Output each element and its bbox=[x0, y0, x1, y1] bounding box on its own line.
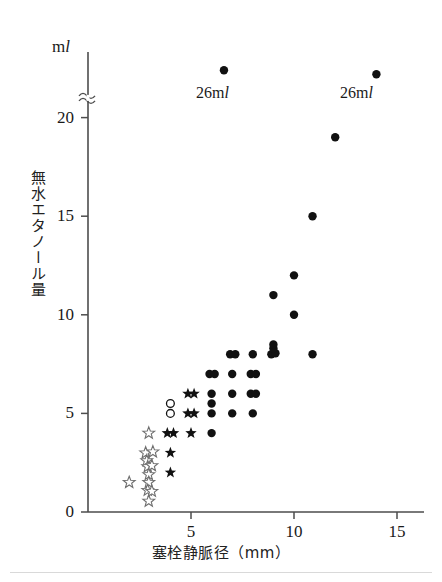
data-point-filled-star bbox=[165, 447, 176, 458]
data-point-filled-circle bbox=[228, 409, 236, 417]
data-point-filled-circle bbox=[269, 291, 277, 299]
data-point-open-circle bbox=[167, 400, 175, 408]
y-tick-label-5: 5 bbox=[40, 404, 74, 421]
data-point-filled-circle bbox=[207, 429, 215, 437]
y-tick-label-10: 10 bbox=[40, 306, 74, 323]
data-point-open-star bbox=[143, 495, 155, 506]
data-point-filled-circle bbox=[207, 409, 215, 417]
data-point-filled-circle bbox=[372, 70, 380, 78]
data-point-filled-circle bbox=[210, 370, 218, 378]
data-point-filled-circle bbox=[269, 340, 277, 348]
y-tick-label-20: 20 bbox=[40, 109, 74, 126]
filled-circle-26ml-label: 26ml bbox=[340, 84, 373, 102]
data-point-filled-circle bbox=[290, 311, 298, 319]
data-point-filled-circle bbox=[228, 370, 236, 378]
data-point-filled-circle bbox=[207, 399, 215, 407]
y-tick-label-0: 0 bbox=[40, 503, 74, 520]
data-point-open-circle bbox=[167, 410, 175, 418]
data-point-filled-circle bbox=[249, 350, 257, 358]
data-point-open-star bbox=[123, 476, 135, 487]
x-tick-label-10: 10 bbox=[277, 523, 311, 540]
open-circle-26ml-label: 26ml bbox=[196, 84, 229, 102]
y-axis-title: 無水エタノール量 bbox=[20, 170, 44, 298]
data-point-filled-circle bbox=[249, 409, 257, 417]
data-point-filled-circle bbox=[290, 271, 298, 279]
data-point-filled-star bbox=[165, 467, 176, 478]
data-point-filled-star bbox=[185, 427, 196, 438]
data-point-open-star bbox=[143, 427, 155, 438]
data-point-filled-circle bbox=[331, 133, 339, 141]
x-axis-title: 塞栓静脈径（mm） bbox=[0, 541, 442, 562]
data-point-filled-circle bbox=[252, 389, 260, 397]
x-tick-label-15: 15 bbox=[380, 523, 414, 540]
data-point-filled-circle bbox=[207, 389, 215, 397]
data-point-filled-circle bbox=[308, 350, 316, 358]
bottom-divider bbox=[10, 572, 432, 573]
data-point-filled-circle bbox=[308, 212, 316, 220]
data-point-filled-circle bbox=[252, 370, 260, 378]
y-tick-label-15: 15 bbox=[40, 207, 74, 224]
data-point-filled-circle bbox=[228, 389, 236, 397]
scatter-plot-figure: ml 無水エタノール量 塞栓静脈径（mm） 051015205101526ml2… bbox=[0, 0, 442, 582]
data-point-filled-circle bbox=[220, 66, 228, 74]
data-point-filled-circle bbox=[231, 350, 239, 358]
x-tick-label-5: 5 bbox=[174, 523, 208, 540]
y-axis-unit-label: ml bbox=[52, 38, 70, 55]
